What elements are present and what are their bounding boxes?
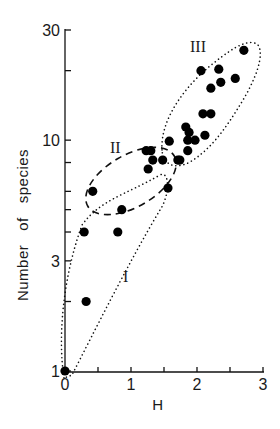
y-tick-label: 30 bbox=[42, 22, 60, 39]
data-point bbox=[239, 46, 248, 55]
data-point bbox=[163, 183, 172, 192]
scatter-chart: 131030 0123 I II III H Number of species bbox=[0, 0, 280, 429]
data-point bbox=[148, 155, 157, 164]
envelope-group-III bbox=[162, 42, 260, 165]
data-point bbox=[181, 122, 190, 131]
group-envelopes bbox=[61, 42, 260, 378]
data-point bbox=[158, 155, 167, 164]
data-point bbox=[183, 146, 192, 155]
data-point bbox=[206, 84, 215, 93]
y-tick-label: 1 bbox=[51, 363, 60, 380]
data-points bbox=[60, 46, 248, 376]
data-point bbox=[206, 109, 215, 118]
group-label-II: II bbox=[110, 139, 121, 156]
x-axis-title: H bbox=[152, 396, 163, 413]
data-point bbox=[82, 297, 91, 306]
group-label-III: III bbox=[190, 38, 206, 55]
data-point bbox=[216, 78, 225, 87]
y-tick-label: 10 bbox=[42, 132, 60, 149]
data-point bbox=[196, 66, 205, 75]
data-point bbox=[80, 227, 89, 236]
y-tick-label: 3 bbox=[51, 253, 60, 270]
x-tick-label: 2 bbox=[193, 376, 202, 393]
x-tick-label: 1 bbox=[127, 376, 136, 393]
data-point bbox=[113, 227, 122, 236]
data-point bbox=[146, 146, 155, 155]
data-point bbox=[175, 155, 184, 164]
data-point bbox=[165, 137, 174, 146]
x-tick-label: 0 bbox=[61, 376, 70, 393]
x-tick-label: 3 bbox=[259, 376, 268, 393]
data-point bbox=[190, 136, 199, 145]
data-point bbox=[198, 109, 207, 118]
x-axis-ticks bbox=[65, 367, 263, 372]
data-point bbox=[231, 74, 240, 83]
data-point bbox=[60, 366, 69, 375]
data-point bbox=[200, 131, 209, 140]
data-point bbox=[214, 65, 223, 74]
data-point bbox=[144, 164, 153, 173]
envelope-group-I bbox=[61, 174, 167, 378]
envelope-group-II bbox=[75, 133, 188, 228]
y-tick-labels: 131030 bbox=[42, 22, 60, 380]
data-point bbox=[117, 205, 126, 214]
group-label-I: I bbox=[123, 268, 128, 285]
y-axis-title: Number of species bbox=[14, 149, 31, 301]
y-axis-ticks bbox=[65, 30, 71, 371]
x-tick-labels: 0123 bbox=[61, 376, 268, 393]
data-point bbox=[88, 187, 97, 196]
